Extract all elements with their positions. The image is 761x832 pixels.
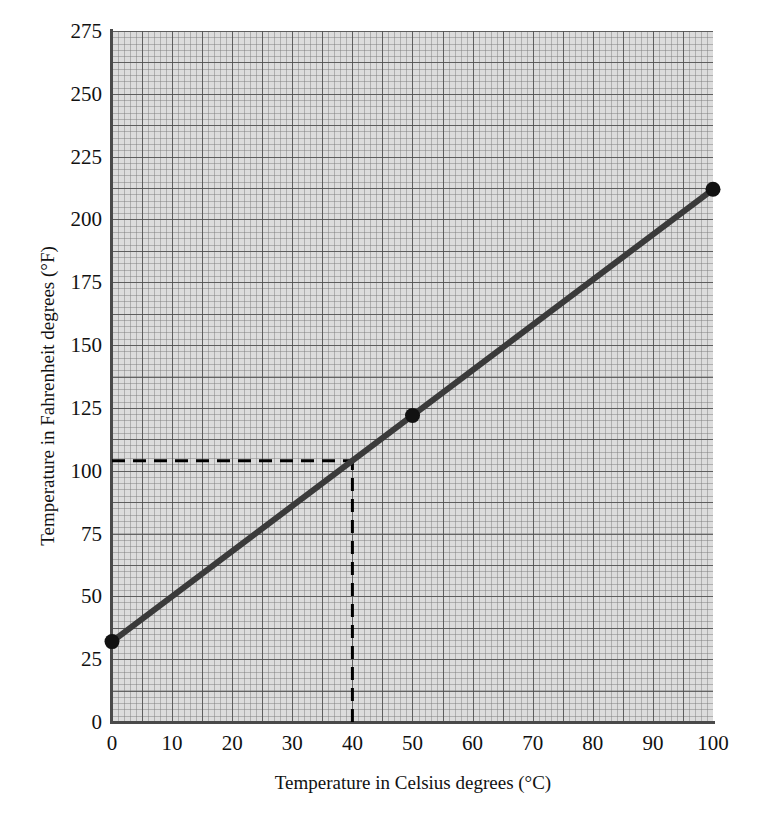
y-tick-label: 275 <box>40 19 102 44</box>
y-tick-label: 175 <box>40 270 102 295</box>
y-tick-label: 25 <box>40 647 102 672</box>
y-tick-label: 200 <box>40 207 102 232</box>
y-tick-label: 50 <box>40 584 102 609</box>
data-point-marker <box>105 634 120 649</box>
y-axis-tick-labels: 0255075100125150175200225250275 <box>36 0 102 832</box>
temperature-conversion-chart: Temperature in Fahrenheit degrees (°F) 0… <box>0 0 761 832</box>
x-tick-label: 100 <box>678 731 748 756</box>
y-tick-label: 75 <box>40 521 102 546</box>
data-point-marker <box>405 408 420 423</box>
y-tick-label: 125 <box>40 395 102 420</box>
data-point-marker <box>706 182 721 197</box>
y-tick-label: 100 <box>40 458 102 483</box>
data-layer <box>112 31 713 722</box>
x-axis-tick-labels: 0102030405060708090100 <box>0 731 761 765</box>
y-tick-label: 150 <box>40 333 102 358</box>
y-tick-label: 250 <box>40 81 102 106</box>
y-tick-label: 225 <box>40 144 102 169</box>
x-axis-title: Temperature in Celsius degrees (°C) <box>112 772 714 794</box>
